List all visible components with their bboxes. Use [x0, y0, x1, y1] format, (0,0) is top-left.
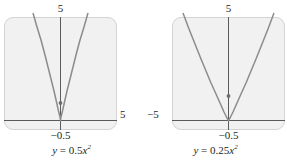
bottom-axis-label-left: −0.5: [4, 129, 117, 141]
caption-right-equals: =: [201, 144, 207, 156]
caption-left-equals: =: [60, 144, 66, 156]
caption-left: y = 0.5x2: [0, 144, 143, 157]
plot-area-right: [172, 17, 285, 130]
side-axis-label-right-panel: −5: [147, 108, 159, 120]
parabola-comparison-figure: 5 5 −0.5 y = 0.5x2 5: [0, 0, 287, 163]
top-axis-label-left: 5: [4, 2, 117, 14]
plot-area-left: [4, 17, 117, 130]
caption-right-coefficient: 0.25: [210, 144, 229, 156]
graph-panel-right: 5 −5 −0.5 y = 0.25x2: [144, 0, 287, 163]
caption-left-exponent: 2: [87, 143, 91, 151]
vertex-point-left: [59, 101, 63, 105]
caption-right-exponent: 2: [234, 143, 238, 151]
graph-panel-left: 5 5 −0.5 y = 0.5x2: [0, 0, 143, 163]
bottom-axis-label-right: −0.5: [172, 129, 285, 141]
caption-left-coefficient: 0.5: [69, 144, 83, 156]
caption-right-variable-y: y: [193, 144, 198, 156]
caption-left-variable-y: y: [52, 144, 57, 156]
top-axis-label-right: 5: [172, 2, 285, 14]
side-axis-label-left-panel: 5: [120, 108, 126, 120]
caption-right: y = 0.25x2: [144, 144, 287, 157]
vertex-point-right: [227, 94, 231, 98]
